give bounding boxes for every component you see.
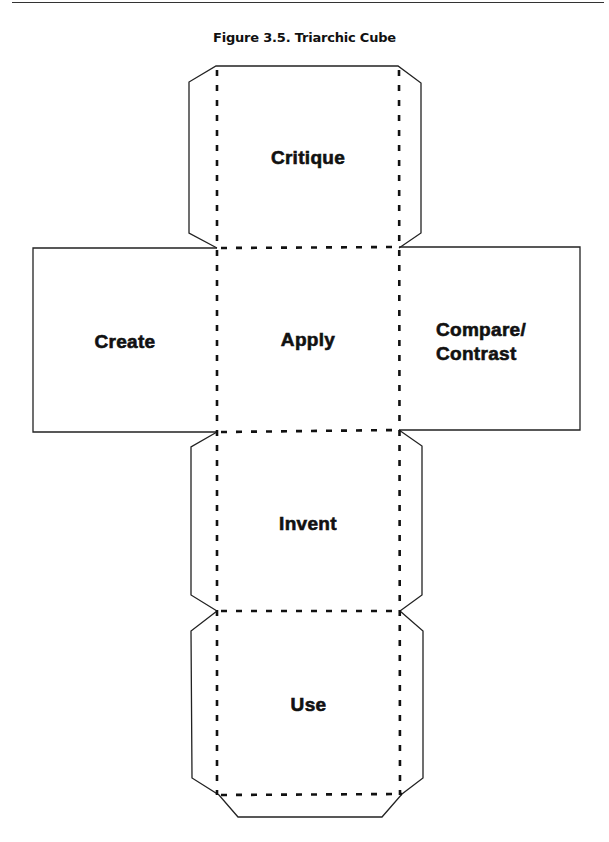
face-label-contrast: Contrast xyxy=(436,342,586,366)
face-label-create: Create xyxy=(33,330,217,354)
face-label-use: Use xyxy=(217,693,400,717)
lower-face-outline xyxy=(191,432,217,611)
fold-line-top-center xyxy=(221,247,399,248)
fold-line-bottom-tab xyxy=(221,794,402,795)
face-label-compare-contrast: Compare/ Contrast xyxy=(436,318,586,366)
fold-line-right-vertical xyxy=(399,70,400,795)
face-label-compare: Compare/ xyxy=(436,318,586,342)
face-label-apply: Apply xyxy=(217,328,399,352)
lower-face-outline-right xyxy=(399,430,422,611)
fold-lines xyxy=(217,70,402,795)
face-label-critique: Critique xyxy=(217,146,399,170)
face-label-invent: Invent xyxy=(217,512,399,536)
fold-line-center-lower xyxy=(221,430,399,432)
